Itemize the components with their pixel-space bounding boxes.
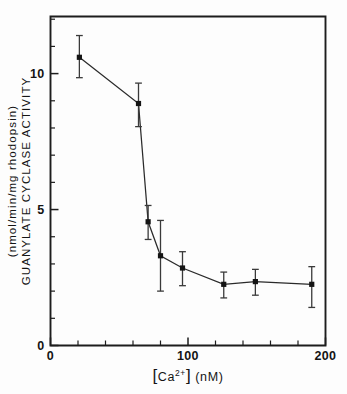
axis-tick-labels: 05100100200 — [30, 67, 336, 362]
x-axis-title: [Ca2+] (nM) — [153, 366, 224, 385]
data-point-group — [252, 269, 259, 295]
data-marker — [77, 55, 82, 60]
data-point-group — [308, 267, 315, 308]
data-point-group — [76, 36, 83, 78]
data-marker — [146, 219, 151, 224]
plot-frame — [51, 17, 326, 346]
data-marker — [309, 282, 314, 287]
x-axis-title-base: Ca — [158, 370, 175, 384]
guanylate-cyclase-activity-chart: 05100100200 GUANYLATE CYCLASE ACTIVITY(n… — [0, 0, 347, 394]
x-tick-label: 100 — [177, 349, 199, 363]
y-tick-label: 5 — [37, 203, 44, 217]
data-marker — [253, 279, 258, 284]
data-marker — [180, 265, 185, 270]
data-line — [79, 57, 311, 284]
x-axis-title-unit: (nM) — [191, 370, 223, 384]
data-point-group — [157, 220, 164, 291]
axis-ticks — [51, 19, 326, 345]
data-point-group — [135, 83, 142, 127]
data-point-group — [145, 205, 152, 239]
data-marker — [136, 101, 141, 106]
x-tick-label: 0 — [47, 349, 54, 363]
y-tick-label: 0 — [37, 339, 44, 353]
x-tick-label: 200 — [315, 349, 337, 363]
data-point-group — [179, 252, 186, 286]
y-axis-title-line1: GUANYLATE CYCLASE ACTIVITY — [20, 77, 32, 286]
y-tick-label: 10 — [30, 67, 45, 81]
x-axis-title-superscript: 2+ — [175, 368, 186, 378]
data-marker — [221, 282, 226, 287]
data-point-group — [220, 272, 227, 298]
data-series — [76, 36, 315, 308]
plot-axes — [51, 17, 326, 346]
data-marker — [158, 253, 163, 258]
y-axis-title-line2: (nmol/min/mg rhodopsin) — [6, 105, 18, 258]
figure-container: 05100100200 GUANYLATE CYCLASE ACTIVITY(n… — [0, 0, 347, 394]
